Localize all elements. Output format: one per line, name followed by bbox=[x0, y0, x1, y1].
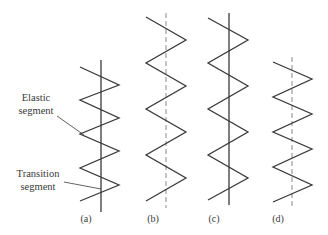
zigzag-spring bbox=[208, 18, 248, 200]
spring-label: (a) bbox=[80, 213, 91, 225]
spring-label: (c) bbox=[208, 213, 219, 225]
annotation-text: Transition bbox=[17, 168, 61, 179]
spring-b: (b) bbox=[146, 13, 186, 225]
annotations-group: ElasticsegmentTransitionsegment bbox=[17, 92, 101, 192]
elastic-segment-annotation: Elasticsegment bbox=[19, 92, 85, 135]
spring-label: (b) bbox=[147, 213, 159, 225]
annotation-text: segment bbox=[21, 181, 56, 192]
springs-group: (a)(b)(c)(d) bbox=[80, 13, 312, 225]
leader-line bbox=[57, 116, 84, 135]
annotation-text: Elastic bbox=[22, 92, 51, 103]
spring-diagram: (a)(b)(c)(d) ElasticsegmentTransitionseg… bbox=[0, 0, 328, 235]
annotation-text: segment bbox=[19, 105, 54, 116]
spring-c: (c) bbox=[208, 13, 248, 225]
spring-label: (d) bbox=[272, 213, 284, 225]
leader-line bbox=[64, 182, 101, 189]
spring-d: (d) bbox=[272, 57, 312, 225]
spring-a: (a) bbox=[80, 60, 119, 225]
zigzag-spring bbox=[80, 67, 119, 201]
